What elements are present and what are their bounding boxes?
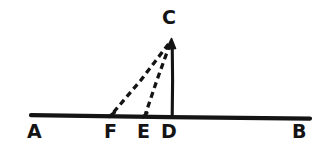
geometry-diagram: A F E D B C [0,0,325,156]
vertex-label-e: E [137,122,150,141]
segment-ce [146,44,171,114]
segment-cf [113,44,169,114]
vertex-label-b: B [292,122,306,141]
vertex-label-a: A [27,122,42,141]
vertex-label-f: F [104,122,117,141]
baseline-segment-ab [31,115,310,118]
vertex-label-d: D [161,122,177,141]
vertex-label-c: C [162,8,176,27]
